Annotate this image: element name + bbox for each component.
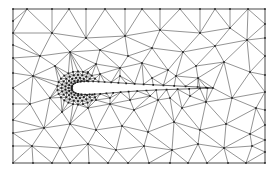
- mesh-diagram: [0, 0, 278, 173]
- mesh-figure: Unstructured triangular mesh around an a…: [0, 0, 278, 173]
